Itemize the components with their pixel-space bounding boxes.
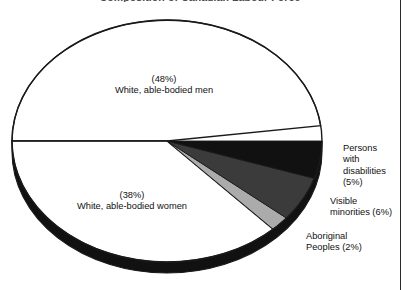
slice-label-women-name: White, able-bodied women — [26, 201, 238, 212]
slice-label-visible-minorities: Visible minorities (6%) — [330, 196, 406, 219]
slice-label-white-able-bodied-men: (48%) White, able-bodied men — [58, 74, 270, 97]
slice-label-disabilities-line1: Persons — [343, 143, 405, 154]
page-frame-right-rule — [400, 0, 401, 290]
slice-label-aboriginal-peoples: Aboriginal Peoples (2%) — [306, 231, 404, 254]
slice-label-men-percent: (48%) — [58, 74, 270, 85]
slice-label-white-able-bodied-women: (38%) White, able-bodied women — [26, 190, 238, 213]
slice-label-minorities-line1: Visible — [330, 196, 406, 207]
slice-label-disabilities-percent: (5%) — [343, 177, 405, 188]
slice-label-women-percent: (38%) — [26, 190, 238, 201]
slice-label-aboriginal-line1: Aboriginal — [306, 231, 404, 242]
pie-chart-figure: Composition of Canadian Labour Force (48… — [0, 0, 412, 290]
slice-label-disabilities-line2: with — [343, 154, 405, 165]
slice-label-minorities-line2: minorities (6%) — [330, 207, 406, 218]
slice-label-aboriginal-line2: Peoples (2%) — [306, 242, 404, 253]
slice-label-disabilities-line3: disabilities — [343, 166, 405, 177]
slice-label-persons-with-disabilities: Persons with disabilities (5%) — [343, 143, 405, 189]
slice-label-men-name: White, able-bodied men — [58, 85, 270, 96]
